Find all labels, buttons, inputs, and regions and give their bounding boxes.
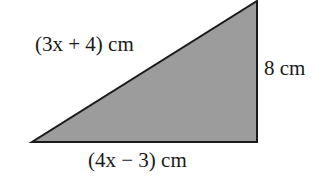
base-label: (4x − 3) cm (88, 148, 187, 173)
vertical-side-label: 8 cm (264, 56, 305, 81)
right-triangle (32, 1, 257, 142)
hypotenuse-label: (3x + 4) cm (35, 32, 134, 57)
